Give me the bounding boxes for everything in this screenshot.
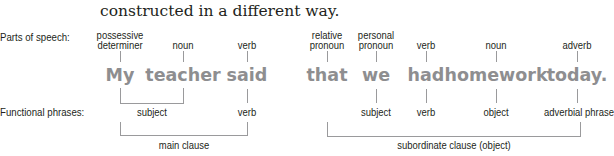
func-verb-sub: verb [417,106,435,118]
connector-line [183,51,184,62]
word-that: that [307,65,348,85]
subordinate-clause-label: subordinate clause (object) [397,139,510,151]
connector-line [496,51,497,62]
connector-line [376,51,377,62]
pos-label-my: possessive determiner [97,30,144,50]
func-subject-main: subject [137,106,167,118]
word-my: My [106,65,135,85]
connector-line [247,89,248,103]
pos-label-that: relative pronoun [310,30,345,50]
subordinate-clause-bracket [327,122,581,137]
connector-line [376,89,377,103]
connector-line [120,51,121,62]
func-subject-sub: subject [361,106,391,118]
connector-line [426,89,427,103]
word-said: said [227,65,268,85]
pos-label-teacher: noun [172,40,193,50]
func-verb-main: verb [238,106,256,118]
pos-text: verb [417,40,435,50]
pos-text: pronoun [358,40,394,50]
pos-text: adverb [563,40,592,50]
connector-line [577,51,578,62]
parts-of-speech-label: Parts of speech: [0,31,70,43]
word-teacher: teacher [145,65,220,85]
pos-text: pronoun [310,40,345,50]
connector-line [577,89,578,103]
word-homework: homework [444,65,547,85]
connector-line [327,51,328,62]
intro-text: constructed in a different way. [100,2,339,20]
pos-label-we: personal pronoun [358,30,394,50]
pos-text: determiner [97,40,144,50]
pos-label-today: adverb [563,40,592,50]
word-had: had [408,65,445,85]
func-object: object [483,106,508,118]
pos-label-homework: noun [485,40,506,50]
func-adverbial-phrase: adverbial phrase [544,106,614,118]
subject-bracket [120,88,184,104]
pos-text: verb [238,40,256,50]
main-clause-bracket [120,122,248,136]
word-today: today. [547,65,608,85]
connector-line [247,51,248,62]
connector-line [426,51,427,62]
pos-text: noun [485,40,506,50]
functional-phrases-label: Functional phrases: [0,106,84,118]
word-we: we [362,65,390,85]
pos-label-said: verb [238,40,256,50]
connector-line [496,89,497,103]
pos-label-had: verb [417,40,435,50]
main-clause-label: main clause [159,139,209,151]
pos-text: noun [172,40,193,50]
